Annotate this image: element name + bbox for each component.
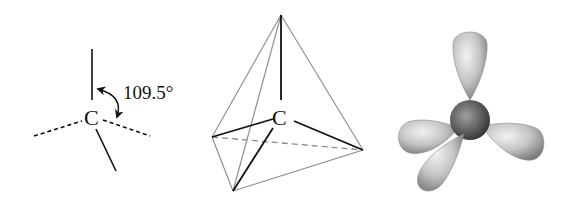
orbital-lobe-right xyxy=(482,123,544,160)
bond-down xyxy=(96,129,116,171)
bond-dashed-left xyxy=(34,121,82,136)
edge-apex-right xyxy=(281,15,363,150)
sp3-orbital-diagram xyxy=(398,32,543,191)
dash-bond-diagram: C 109.5° xyxy=(34,49,173,171)
carbon-label: C xyxy=(272,105,287,130)
edge-bottom-right xyxy=(233,150,363,191)
angle-arrow-icon xyxy=(98,89,118,117)
orbital-lobe-top xyxy=(453,32,487,100)
hybridization-diagram: C 109.5° C xyxy=(0,0,568,207)
carbon-label: C xyxy=(84,105,99,130)
bond-to-right xyxy=(294,121,363,150)
edge-apex-left xyxy=(212,15,281,137)
bond-to-bottom xyxy=(233,128,273,191)
bond-angle-label: 109.5° xyxy=(123,82,173,103)
edge-apex-bottom xyxy=(233,15,281,191)
nucleus xyxy=(450,100,490,140)
tetrahedron-diagram: C xyxy=(212,15,363,191)
edge-left-bottom xyxy=(212,137,233,191)
edge-hidden-left-right xyxy=(212,137,363,150)
bond-dashed-right xyxy=(103,120,150,136)
